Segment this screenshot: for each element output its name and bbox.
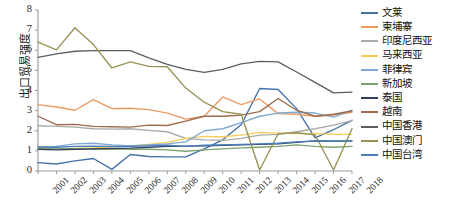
y-tick-label: 8 — [14, 3, 32, 14]
legend-item[interactable]: 柬埔寨 — [361, 20, 456, 34]
y-tick-label: 4 — [14, 84, 32, 95]
series-line — [38, 88, 352, 169]
legend-item-label: 印度尼西亚 — [382, 36, 432, 47]
legend-item-label: 柬埔寨 — [382, 22, 412, 33]
legend-item-label: 中国澳门 — [382, 136, 422, 147]
series-line — [38, 97, 352, 119]
y-tick-label: 3 — [14, 104, 32, 115]
legend-color-swatch — [361, 40, 378, 42]
legend-item[interactable]: 越南 — [361, 105, 456, 119]
legend-item[interactable]: 菲律宾 — [361, 63, 456, 77]
legend-color-swatch — [361, 97, 378, 99]
legend-color-swatch — [361, 140, 378, 142]
legend-item[interactable]: 文莱 — [361, 6, 456, 20]
legend-item[interactable]: 泰国 — [361, 91, 456, 105]
legend-color-swatch — [361, 83, 378, 85]
legend-item-label: 马来西亚 — [382, 50, 422, 61]
legend-item[interactable]: 印度尼西亚 — [361, 34, 456, 48]
y-tick-label: 5 — [14, 63, 32, 74]
legend-color-swatch — [361, 111, 378, 113]
legend-item[interactable]: 新加坡 — [361, 77, 456, 91]
y-tick-label: 2 — [14, 124, 32, 135]
legend-color-swatch — [361, 55, 378, 57]
legend-item[interactable]: 中国澳门 — [361, 134, 456, 148]
legend-item-label: 新加坡 — [382, 79, 412, 90]
legend-color-swatch — [361, 26, 378, 28]
legend-item-label: 中国台湾 — [382, 150, 422, 161]
legend-item[interactable]: 中国香港 — [361, 120, 456, 134]
y-tick-label: 7 — [14, 23, 32, 34]
chart-series-layer — [38, 28, 352, 170]
legend-item[interactable]: 马来西亚 — [361, 49, 456, 63]
legend-color-swatch — [361, 69, 378, 71]
y-tick-label: 6 — [14, 43, 32, 54]
legend-item-label: 文莱 — [382, 8, 402, 19]
chart-legend: 文莱柬埔寨印度尼西亚马来西亚菲律宾新加坡泰国越南中国香港中国澳门中国台湾 — [361, 6, 456, 162]
y-tick-label: 1 — [14, 144, 32, 155]
legend-color-swatch — [361, 126, 378, 128]
legend-item-label: 中国香港 — [382, 121, 422, 132]
legend-color-swatch — [361, 12, 378, 14]
legend-item[interactable]: 中国台湾 — [361, 148, 456, 162]
series-line — [38, 51, 352, 93]
chart-container: 出口贸易强度 876543210 20012002200320042005200… — [0, 0, 456, 206]
legend-item-label: 菲律宾 — [382, 65, 412, 76]
legend-item-label: 泰国 — [382, 93, 402, 104]
legend-color-swatch — [361, 154, 378, 156]
y-tick-label: 0 — [14, 164, 32, 175]
legend-item-label: 越南 — [382, 107, 402, 118]
